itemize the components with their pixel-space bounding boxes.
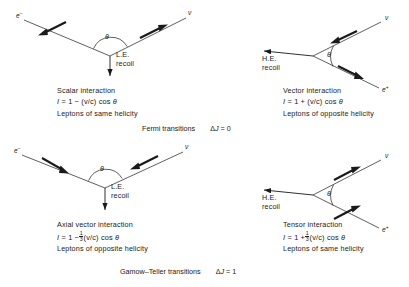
panel-vector-lines [264,22,381,88]
recoil-word-axial: recoil [111,191,129,200]
caption-fermi-transitions: Fermi transitions ΔJ = 0 [142,124,231,133]
interaction-name-vector: Vector interaction [283,86,341,95]
recoil-word-tensor: recoil [262,202,280,211]
cos-operator: cos [101,233,113,242]
recoil-energy-scalar: L.E. [116,50,134,59]
velocity-ratio: (v/c) [310,233,325,242]
equals-sign: = [287,233,291,242]
formula-sign: + [301,97,305,106]
intensity-formula-axial: I = 1 −13(v/c) cos θ [57,231,119,243]
cos-operator: cos [325,97,337,106]
caption-fermi-rule: ΔJ = 0 [210,124,231,133]
particle-label-neutrino-scalar: ν [188,9,191,16]
recoil-energy-axial: L.E. [111,182,129,191]
caption-gt-rule: ΔJ = 1 [216,267,237,276]
panel-scalar-lines [24,18,186,76]
equals-sign: = [221,124,225,133]
helicity-note-vector: Leptons of opposite helicity [283,109,374,118]
equals-sign: = [226,267,230,276]
spin-arrow-upper [330,31,357,44]
cos-operator: cos [327,233,339,242]
one-term: 1 [294,233,298,242]
equals-sign: = [287,97,291,106]
caption-gamow-teller-transitions: Gamow–Teller transitions ΔJ = 1 [120,267,236,276]
intensity-symbol: I [57,233,59,242]
j-symbol: J [221,267,225,276]
spin-arrow-left [38,22,66,36]
helicity-note-scalar: Leptons of same helicity [57,109,138,118]
cos-operator: cos [99,97,111,106]
spin-arrow-upper [334,167,361,181]
angle-label-axial: θ [100,165,104,172]
intensity-symbol: I [283,233,285,242]
intensity-symbol: I [283,97,285,106]
recoil-label-vector: H.E. recoil [262,54,280,72]
particle-label-positron-vector: e+ [382,84,389,93]
helicity-note-tensor: Leptons of same helicity [283,244,364,253]
velocity-ratio: (v/c) [307,97,322,106]
rule-value: 1 [232,267,236,276]
j-symbol: J [215,124,219,133]
recoil-word-scalar: recoil [116,59,134,68]
spin-arrow-lower [338,66,364,79]
intensity-formula-vector: I = 1 + (v/c) cos θ [283,97,343,106]
helicity-note-axial: Leptons of opposite helicity [57,244,148,253]
velocity-ratio: (v/c) [81,97,96,106]
one-term: 1 [68,97,72,106]
angle-label-tensor: θ [327,190,331,197]
panel-axial-lines [22,152,183,210]
caption-fermi-name: Fermi transitions [142,124,195,133]
recoil-label-scalar: L.E. recoil [116,50,134,68]
equals-sign: = [61,233,65,242]
angle-symbol: θ [341,233,345,242]
recoil-energy-tensor: H.E. [262,193,280,202]
recoil-label-axial: L.E. recoil [111,182,129,200]
spin-arrow-left [42,158,69,174]
particle-label-neutrino-axial: ν [185,143,188,150]
beta-decay-figure: e− ν θ L.E. recoil Scalar interaction I … [0,0,409,287]
spin-arrow-right [130,156,158,170]
particle-label-positron-tensor: e+ [382,224,389,233]
equals-sign: = [61,97,65,106]
spin-arrow-right [140,25,168,39]
intensity-symbol: I [57,97,59,106]
angle-label-scalar: θ [105,33,109,40]
recoil-word-vector: recoil [262,63,280,72]
interaction-name-axial: Axial vector interaction [57,220,133,229]
rule-value: 0 [227,124,231,133]
caption-gt-name: Gamow–Teller transitions [120,267,201,276]
particle-label-neutrino-vector: ν [385,14,388,21]
one-term: 1 [294,97,298,106]
particle-label-electron-axial: e− [14,145,21,154]
recoil-energy-vector: H.E. [262,54,280,63]
angle-label-vector: θ [327,51,331,58]
one-term: 1 [68,233,72,242]
angle-symbol: θ [113,97,117,106]
particle-label-neutrino-tensor: ν [385,152,388,159]
intensity-formula-scalar: I = 1 − (v/c) cos θ [57,97,117,106]
angle-symbol: θ [115,233,119,242]
interaction-name-scalar: Scalar interaction [57,86,115,95]
interaction-name-tensor: Tensor interaction [283,220,342,229]
panel-tensor-lines [264,160,381,228]
velocity-ratio: (v/c) [84,233,99,242]
intensity-formula-tensor: I = 1 +13(v/c) cos θ [283,231,345,243]
particle-label-electron-scalar: e− [16,10,23,19]
formula-sign: − [75,97,79,106]
angle-symbol: θ [339,97,343,106]
recoil-label-tensor: H.E. recoil [262,193,280,211]
